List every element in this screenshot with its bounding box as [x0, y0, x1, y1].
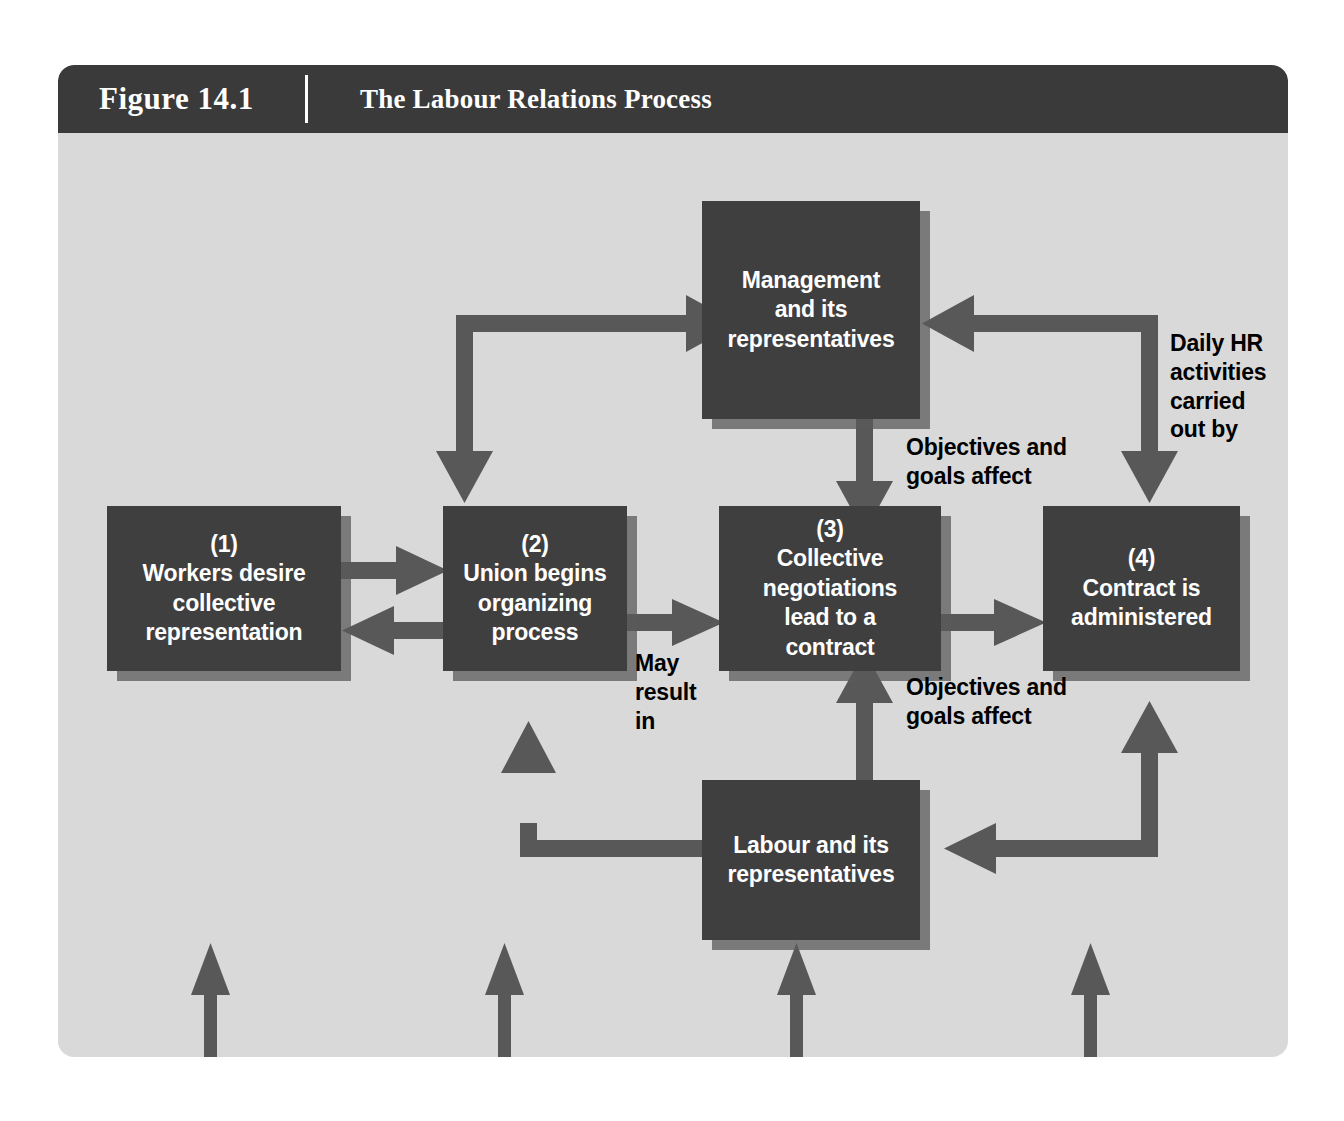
node-labour-representatives: Labour and its representatives	[702, 780, 920, 940]
arrow-workers-union-right	[336, 546, 448, 595]
node-negotiations-label: (3) Collective negotiations lead to a co…	[763, 515, 897, 662]
node-union-label: (2) Union begins organizing process	[463, 530, 606, 648]
header-divider	[305, 75, 308, 123]
node-management: Management and its representatives	[702, 201, 920, 419]
arrow-union-management	[436, 295, 738, 503]
figure-root: Figure 14.1 The Labour Relations Process	[0, 0, 1344, 1121]
arrow-union-negotiations	[620, 599, 724, 646]
arrow-negotiations-contract	[938, 599, 1046, 646]
node-contract-administered: (4) Contract is administered	[1043, 506, 1240, 671]
edge-label-daily-hr: Daily HR activities carried out by	[1170, 329, 1266, 444]
node-union-begins: (2) Union begins organizing process	[443, 506, 627, 671]
figure-panel: Figure 14.1 The Labour Relations Process	[58, 65, 1288, 1057]
node-workers-label: (1) Workers desire collective representa…	[143, 530, 306, 648]
figure-title: The Labour Relations Process	[360, 84, 712, 115]
arrow-laws-3	[777, 943, 816, 1057]
node-collective-negotiations: (3) Collective negotiations lead to a co…	[719, 506, 941, 671]
arrow-laws-4	[1071, 943, 1110, 1057]
diagram-canvas: Management and its representatives (1) W…	[58, 133, 1288, 1057]
arrow-union-workers-left	[342, 606, 454, 655]
node-contract-label: (4) Contract is administered	[1071, 544, 1212, 632]
arrow-laws-1	[191, 943, 230, 1057]
node-management-label: Management and its representatives	[727, 266, 894, 354]
node-workers-desire: (1) Workers desire collective representa…	[107, 506, 341, 671]
edge-label-objectives-bottom: Objectives and goals affect	[906, 673, 1067, 731]
arrow-laws-2	[485, 943, 524, 1057]
edge-label-may-result-in: May result in	[635, 649, 696, 735]
node-labour-label: Labour and its representatives	[727, 831, 894, 890]
figure-header: Figure 14.1 The Labour Relations Process	[58, 65, 1288, 133]
figure-number: Figure 14.1	[99, 81, 299, 117]
edge-label-objectives-top: Objectives and goals affect	[906, 433, 1067, 491]
